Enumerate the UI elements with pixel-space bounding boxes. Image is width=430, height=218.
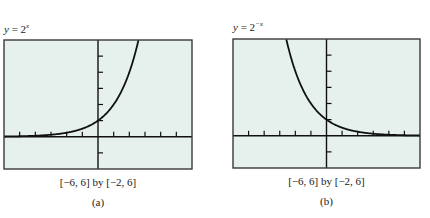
sublabel-a: (a) [4,196,192,208]
graph-a [4,40,192,169]
eq-lhs: y [4,23,9,35]
eq-exponent: x [26,22,29,30]
eq-lhs: y [233,21,238,33]
sublabel-b: (b) [233,195,420,207]
eq-op: = [241,21,247,33]
graph-b [233,39,420,168]
equation-label-b: y = 2−x [233,20,263,33]
window-label-a: [−6, 6] by [−2, 6] [4,176,192,188]
eq-exponent: −x [255,20,263,28]
eq-op: = [12,23,18,35]
figure-b: y = 2−x [−6, 6] by [−2, 6] (b) [215,0,430,218]
equation-label-a: y = 2x [4,22,29,35]
figure-a: y = 2x [−6, 6] by [−2, 6] (a) [0,0,215,218]
window-label-b: [−6, 6] by [−2, 6] [233,175,420,187]
